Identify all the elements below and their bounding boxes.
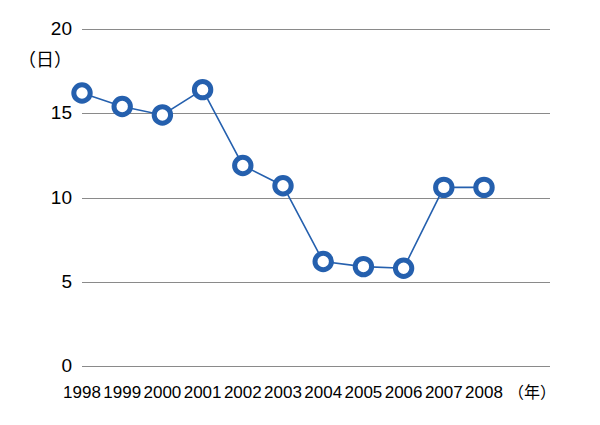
x-tick-label: 2005 — [344, 383, 382, 402]
series-layer — [62, 9, 570, 386]
series-markers — [74, 81, 492, 276]
data-point-marker — [194, 81, 210, 97]
x-tick-label: 2006 — [385, 383, 423, 402]
x-tick-label: 1999 — [103, 383, 141, 402]
x-tick-label: 2004 — [304, 383, 342, 402]
data-point-marker — [436, 179, 452, 195]
data-point-marker — [235, 157, 251, 173]
data-point-marker — [154, 107, 170, 123]
x-tick-label: 2002 — [224, 383, 262, 402]
x-tick-label: 2007 — [425, 383, 463, 402]
data-point-marker — [74, 85, 90, 101]
data-point-marker — [395, 260, 411, 276]
x-tick-label: 2000 — [143, 383, 181, 402]
data-point-marker — [275, 178, 291, 194]
data-point-marker — [114, 98, 130, 114]
line-chart: 05101520 （日） 199819992000200120022003200… — [0, 0, 600, 425]
x-axis-unit-label: （年） — [508, 383, 556, 402]
x-tick-label: 2001 — [184, 383, 222, 402]
x-tick-label: 2003 — [264, 383, 302, 402]
x-tick-label: 2008 — [465, 383, 503, 402]
data-point-marker — [315, 253, 331, 269]
x-tick-label: 1998 — [63, 383, 101, 402]
plot-area — [82, 29, 550, 366]
data-point-marker — [355, 258, 371, 274]
data-point-marker — [476, 179, 492, 195]
